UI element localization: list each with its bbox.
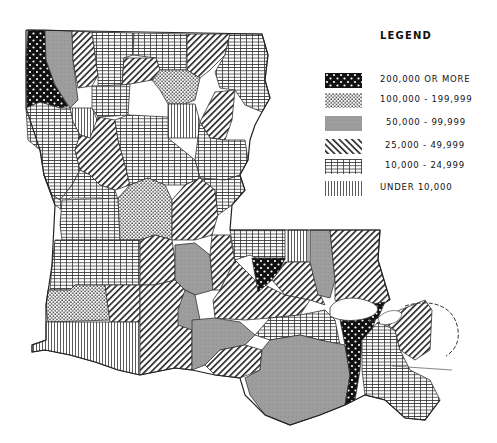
legend-label: UNDER 10,000 <box>380 182 452 192</box>
legend-label: 25,000 - 49,999 <box>385 140 465 150</box>
legend-label: 50,000 - 99,999 <box>386 117 466 127</box>
legend-item-100k-199k: 100,000 - 199,999 <box>320 92 497 108</box>
louisiana-population-map <box>0 0 497 443</box>
parish-vernon <box>60 198 120 240</box>
legend-item-25k-49k: 25,000 - 49,999 <box>320 138 497 154</box>
parish-beauregard <box>50 240 140 290</box>
parish-jefferson-davis <box>105 285 140 322</box>
parish-evangeline <box>140 235 175 285</box>
legend-label: 200,000 OR MORE <box>380 74 470 84</box>
legend-item-10k-24k: 10,000 - 24,999 <box>320 158 497 174</box>
legend-item-50k-99k: 50,000 - 99,999 <box>320 115 497 131</box>
legend-label: 10,000 - 24,999 <box>385 160 465 170</box>
legend-item-under-10k: UNDER 10,000 <box>320 180 497 196</box>
parish-ouachita <box>152 70 200 104</box>
parish-east-feliciana <box>288 230 308 262</box>
swatch-fine-dots-icon <box>325 93 362 108</box>
swatch-black-dots-icon <box>325 73 362 88</box>
swatch-gray-icon <box>325 116 362 131</box>
swatch-diagonal-hatch-icon <box>325 139 362 154</box>
legend-label: 100,000 - 199,999 <box>380 94 472 104</box>
parish-rapides <box>118 178 172 240</box>
legend-title: LEGEND <box>380 30 432 41</box>
legend-item-200k-or-more: 200,000 OR MORE <box>320 72 497 88</box>
parish-calcasieu <box>46 285 110 322</box>
parish-cameron <box>32 322 140 375</box>
swatch-grid-hatch-icon <box>325 159 362 174</box>
parishes <box>26 30 440 425</box>
parish-jackson <box>92 84 130 117</box>
swatch-vertical-lines-icon <box>325 181 362 196</box>
parish-caldwell <box>168 104 200 138</box>
